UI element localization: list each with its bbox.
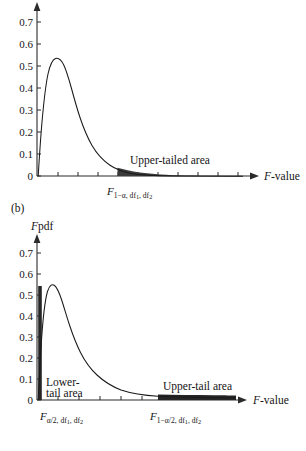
panel-b-x-axis-title: F-value bbox=[252, 394, 289, 406]
panel-b-ytick-2: 0.2 bbox=[19, 352, 33, 364]
panel-b-ytick-3: 0.3 bbox=[19, 331, 33, 343]
panel-b-lowcrit-submid: , df bbox=[70, 416, 81, 425]
panel-a-upper-tail-shade bbox=[118, 168, 244, 176]
panel-b-lower-critical-label: Fα/2, df1, df2 bbox=[39, 410, 83, 425]
panel-a-ytick-5: 0.5 bbox=[19, 60, 33, 72]
panel-a-upper-tail-label: Upper-tailed area bbox=[130, 154, 210, 167]
panel-b-upper-tail-label: Upper-tail area bbox=[163, 380, 232, 393]
panel-b-letter: (b) bbox=[11, 202, 25, 215]
panel-b-ytick-1: 0.1 bbox=[19, 373, 33, 385]
panel-b-upcrit-sub: 1−α/2, df bbox=[157, 416, 186, 425]
panel-a-xtitle-rest: -value bbox=[271, 170, 300, 182]
panel-b-upper-critical-label: F1−α/2, df1, df2 bbox=[149, 410, 201, 425]
svg-text:Fα/2, df1, df2: Fα/2, df1, df2 bbox=[39, 410, 83, 425]
svg-text:Fpdf: Fpdf bbox=[30, 220, 54, 233]
figure-svg: 0 0.1 0.2 0.3 0.4 0.5 0.6 0.7 bbox=[0, 0, 306, 451]
panel-b-ytitle-rest: pdf bbox=[38, 220, 54, 233]
svg-text:F-value: F-value bbox=[252, 394, 289, 406]
panel-b-xtitle-rest: -value bbox=[260, 394, 289, 406]
svg-text:F1−α, df1, df2: F1−α, df1, df2 bbox=[106, 185, 152, 200]
panel-a-ytick-0: 0 bbox=[28, 170, 34, 182]
panel-a-crit-submid: , df bbox=[139, 191, 150, 200]
panel-b: Fpdf 0 0.1 0.2 0.3 0.4 0.5 0.6 0.7 bbox=[19, 220, 289, 425]
panel-b-y-axis-title: Fpdf bbox=[30, 220, 54, 233]
panel-b-lowcrit-sub2: 2 bbox=[80, 418, 83, 425]
panel-b-upcrit-submid: , df bbox=[188, 416, 199, 425]
panel-b-upcrit-sub2: 2 bbox=[198, 418, 201, 425]
panel-a-x-axis-arrow bbox=[250, 173, 259, 180]
panel-a-y-axis-arrow bbox=[34, 2, 41, 11]
panel-b-x-axis-arrow bbox=[238, 397, 247, 404]
panel-b-ytick-5: 0.5 bbox=[19, 289, 33, 301]
panel-b-ytick-0: 0 bbox=[28, 394, 34, 406]
panel-a-ytick-3: 0.3 bbox=[19, 104, 33, 116]
panel-a-crit-sub2: 2 bbox=[149, 193, 152, 200]
panel-a-crit-sub: 1−α, df bbox=[114, 191, 137, 200]
panel-a-critical-value-label: F1−α, df1, df2 bbox=[106, 185, 152, 200]
panel-b-lowcrit-sub: α/2, df bbox=[47, 416, 67, 425]
panel-a-ytick-7: 0.7 bbox=[19, 16, 33, 28]
panel-a-ytick-4: 0.4 bbox=[19, 82, 33, 94]
panel-a-ytick-6: 0.6 bbox=[19, 38, 33, 50]
svg-text:F1−α/2, df1, df2: F1−α/2, df1, df2 bbox=[149, 410, 201, 425]
panel-a: 0 0.1 0.2 0.3 0.4 0.5 0.6 0.7 bbox=[19, 2, 300, 200]
panel-b-ytick-7: 0.7 bbox=[19, 247, 33, 259]
panel-a-ytick-2: 0.2 bbox=[19, 126, 33, 138]
panel-a-ytick-1: 0.1 bbox=[19, 148, 33, 160]
panel-b-ytick-4: 0.4 bbox=[19, 310, 33, 322]
panel-a-x-axis-title: F-value bbox=[263, 170, 300, 182]
panel-a-y-ticks bbox=[37, 22, 41, 176]
svg-text:F-value: F-value bbox=[263, 170, 300, 182]
f-distribution-figure: 0 0.1 0.2 0.3 0.4 0.5 0.6 0.7 bbox=[0, 0, 306, 451]
panel-b-ytick-6: 0.6 bbox=[19, 268, 33, 280]
panel-b-y-axis-arrow bbox=[34, 234, 41, 243]
panel-b-lower-tail-label-line2: tail area bbox=[46, 387, 83, 399]
